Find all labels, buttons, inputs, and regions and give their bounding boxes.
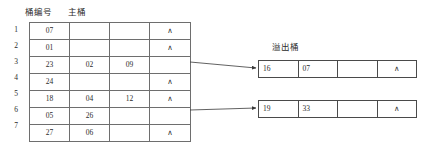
- overflow2-cell-4-null-pointer: ∧: [377, 101, 417, 118]
- overflow1-cell-3: [338, 61, 378, 78]
- table-row: 23 02 09: [30, 57, 191, 74]
- overflow-bucket-table-2: 19 33 ∧: [258, 100, 417, 118]
- main-cell-r1c2: [70, 23, 110, 40]
- main-cell-r5c4-null-pointer: ∧: [150, 91, 191, 108]
- main-cell-r1c3: [110, 23, 150, 40]
- row-number-5: 5: [8, 86, 24, 102]
- table-row: 07 ∧: [30, 23, 191, 40]
- main-cell-r7c2: 06: [70, 125, 110, 142]
- main-cell-r3c1: 23: [30, 57, 70, 74]
- main-cell-r6c2: 26: [70, 108, 110, 125]
- main-cell-r5c2: 04: [70, 91, 110, 108]
- main-cell-r2c2: [70, 40, 110, 57]
- diagram-canvas: 桶编号 主桶 溢出桶 1 2 3 4 5 6 7 07 ∧ 01 ∧ 2: [0, 0, 421, 148]
- row-number-4: 4: [8, 70, 24, 86]
- overflow2-cell-2: 33: [298, 101, 338, 118]
- main-cell-r7c4-null-pointer: ∧: [150, 125, 191, 142]
- overflow2-cell-1: 19: [259, 101, 299, 118]
- main-cell-r4c1: 24: [30, 74, 70, 91]
- table-row: 18 04 12 ∧: [30, 91, 191, 108]
- overflow-bucket-header: 溢出桶: [272, 43, 299, 52]
- overflow2-cell-3: [338, 101, 378, 118]
- connector-arrow-row3-to-overflow1: [190, 62, 256, 68]
- main-cell-r2c4-null-pointer: ∧: [150, 40, 191, 57]
- row-number-7: 7: [8, 118, 24, 134]
- main-bucket-table: 07 ∧ 01 ∧ 23 02 09 24 ∧: [29, 22, 191, 142]
- main-cell-r7c3: [110, 125, 150, 142]
- table-row: 27 06 ∧: [30, 125, 191, 142]
- table-row: 19 33 ∧: [259, 101, 417, 118]
- main-cell-r5c1: 18: [30, 91, 70, 108]
- table-row: 01 ∧: [30, 40, 191, 57]
- row-number-3: 3: [8, 54, 24, 70]
- main-cell-r6c1: 05: [30, 108, 70, 125]
- connector-arrow-row6-to-overflow2: [190, 108, 256, 110]
- main-cell-r6c4-overflow-pointer: [150, 108, 191, 125]
- overflow1-cell-1: 16: [259, 61, 299, 78]
- overflow-bucket-table-1: 16 07 ∧: [258, 60, 417, 78]
- main-cell-r2c3: [110, 40, 150, 57]
- main-cell-r1c1: 07: [30, 23, 70, 40]
- table-row: 24 ∧: [30, 74, 191, 91]
- main-cell-r6c3: [110, 108, 150, 125]
- main-cell-r4c4-null-pointer: ∧: [150, 74, 191, 91]
- main-cell-r4c3: [110, 74, 150, 91]
- main-cell-r4c2: [70, 74, 110, 91]
- main-cell-r1c4-null-pointer: ∧: [150, 23, 191, 40]
- row-number-2: 2: [8, 38, 24, 54]
- main-cell-r7c1: 27: [30, 125, 70, 142]
- main-cell-r5c3: 12: [110, 91, 150, 108]
- row-number-6: 6: [8, 102, 24, 118]
- bucket-number-header: 桶编号: [25, 8, 52, 17]
- main-cell-r3c4-overflow-pointer: [150, 57, 191, 74]
- overflow1-cell-2: 07: [298, 61, 338, 78]
- overflow1-cell-4-null-pointer: ∧: [377, 61, 417, 78]
- table-row: 05 26: [30, 108, 191, 125]
- table-row: 16 07 ∧: [259, 61, 417, 78]
- main-bucket-header: 主桶: [68, 8, 86, 17]
- main-cell-r3c2: 02: [70, 57, 110, 74]
- main-cell-r3c3: 09: [110, 57, 150, 74]
- main-cell-r2c1: 01: [30, 40, 70, 57]
- row-number-1: 1: [8, 22, 24, 38]
